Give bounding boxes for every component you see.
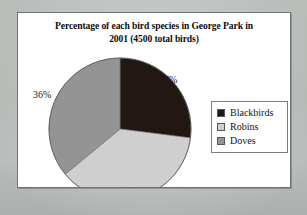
legend-label-robins: Robins xyxy=(230,122,258,132)
pie-slice-blackbirds[interactable] xyxy=(120,58,191,138)
screenshot-root: Percentage of each bird species in Georg… xyxy=(0,0,307,215)
legend-label-blackbirds: Blackbirds xyxy=(230,108,273,118)
pie-chart-svg xyxy=(18,13,290,187)
legend-item-blackbirds[interactable]: Blackbirds xyxy=(217,106,283,120)
pie-chart: 27% 37% 36% xyxy=(18,13,290,187)
chart-panel: Percentage of each bird species in Georg… xyxy=(17,12,291,188)
legend-label-doves: Doves xyxy=(230,136,256,146)
pie-label-doves: 36% xyxy=(33,89,51,100)
legend-item-robins[interactable]: Robins xyxy=(217,120,283,134)
pie-label-blackbirds: 27% xyxy=(159,74,177,85)
legend-swatch-robins xyxy=(217,123,225,131)
legend-swatch-blackbirds xyxy=(217,109,225,117)
legend-item-doves[interactable]: Doves xyxy=(217,134,283,148)
chart-legend: Blackbirds Robins Doves xyxy=(211,101,288,153)
legend-swatch-doves xyxy=(217,137,225,145)
